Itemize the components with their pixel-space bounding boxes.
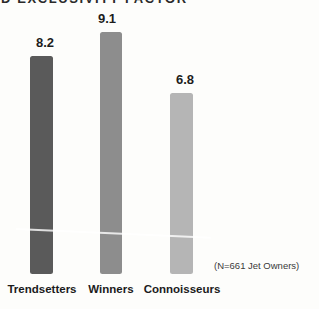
bar-chart-figure: D EXCLUSIVITY FACTOR 8.2Trendsetters9.1W…: [0, 0, 319, 309]
sample-size-note: (N=661 Jet Owners): [214, 260, 299, 271]
category-label-trendsetters: Trendsetters: [7, 283, 76, 295]
bar-trendsetters: [30, 56, 53, 274]
bar-value-label: 9.1: [98, 11, 116, 26]
category-label-connoisseurs: Connoisseurs: [144, 283, 221, 295]
category-label-winners: Winners: [88, 283, 133, 295]
bar-connoisseurs: [170, 93, 193, 274]
bar-value-label: 6.8: [176, 72, 194, 87]
bar-value-label: 8.2: [36, 35, 54, 50]
bar-winners: [100, 32, 122, 274]
